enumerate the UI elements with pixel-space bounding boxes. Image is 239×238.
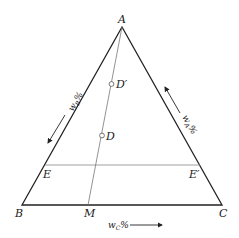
arrow-wb-icon [48,115,65,143]
label-a: A [117,13,126,26]
axis-label-wc: wC% [108,220,129,231]
svg-text:wA%: wA% [179,113,199,136]
ternary-diagram: A B C M D′ D E E′ wB% wA% wC% [0,0,239,238]
axis-label-wa: wA% [179,113,199,136]
label-e: E [42,168,51,181]
label-b: B [14,207,23,220]
point-d-prime [109,82,114,87]
label-c: C [219,207,228,220]
label-d-prime: D′ [115,78,128,91]
label-m: M [83,207,96,220]
point-d [100,133,105,138]
label-d: D [105,130,115,143]
line-a-m [88,27,122,205]
axis-label-wb: wB% [66,90,86,113]
arrow-wa-icon [165,87,180,113]
svg-text:wB%: wB% [66,90,86,113]
label-e-prime: E′ [188,168,200,181]
